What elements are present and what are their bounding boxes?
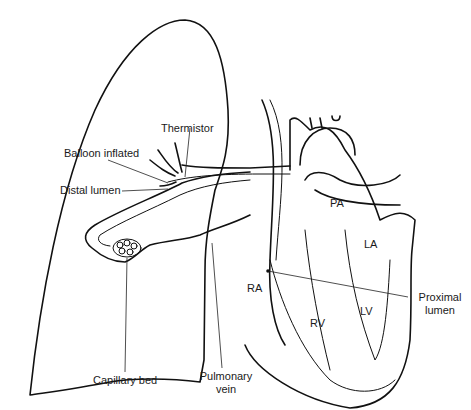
pulmonary-artery-branch-inner (98, 180, 250, 246)
label-pulmonary-vein: Pulmonary vein (196, 370, 256, 396)
capillary-bed-network (113, 239, 141, 257)
label-distal-lumen: Distal lumen (60, 184, 121, 197)
aortic-arch (300, 116, 355, 165)
label-lv: LV (360, 305, 373, 318)
capillary-bed-leader (125, 258, 127, 372)
rv-inner (270, 260, 395, 391)
ventricular-septum (305, 230, 390, 370)
thermistor-leader (185, 128, 190, 177)
label-pulmonary-vein-line1: Pulmonary (196, 370, 256, 383)
diagram-drawing (0, 0, 471, 410)
label-capillary-bed: Capillary bed (93, 374, 157, 387)
catheter-svc (262, 100, 285, 345)
proximal-lumen-leader (268, 271, 408, 297)
label-thermistor: Thermistor (161, 122, 214, 135)
distal-lumen-leader (122, 189, 168, 191)
label-balloon-inflated: Balloon inflated (64, 147, 139, 160)
pulmonary-vein-leader (212, 243, 222, 368)
label-la: LA (364, 238, 377, 251)
label-proximal-lumen: Proximal lumen (410, 291, 470, 317)
label-proximal-lumen-line2: lumen (410, 304, 470, 317)
label-pa: PA (330, 197, 344, 210)
pa-catheter-diagram: Thermistor Balloon inflated Distal lumen… (0, 0, 471, 410)
proximal-lumen-port (266, 269, 270, 273)
balloon-leader (108, 160, 168, 183)
label-ra: RA (247, 282, 262, 295)
pulmonary-trunk (305, 173, 400, 206)
label-proximal-lumen-line1: Proximal (410, 291, 470, 304)
label-pulmonary-vein-line2: vein (196, 383, 256, 396)
label-rv: RV (310, 317, 325, 330)
